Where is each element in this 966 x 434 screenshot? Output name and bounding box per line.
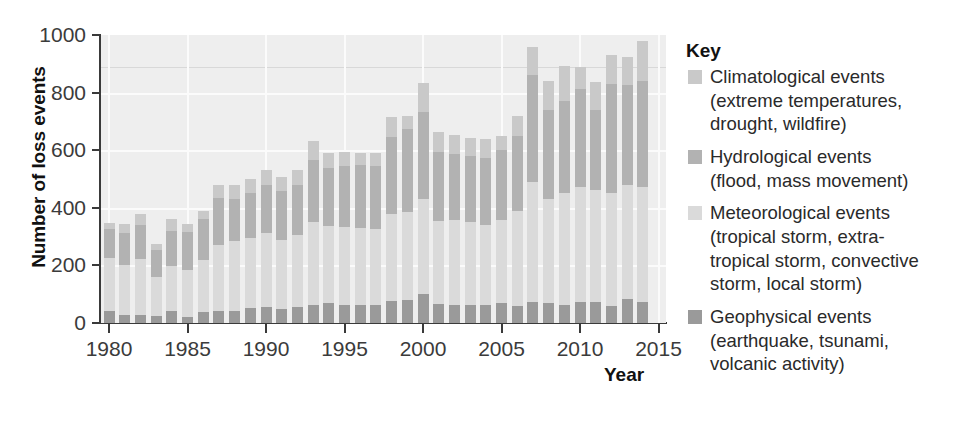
bar-2003: [465, 138, 476, 323]
x-tick-label: 1995: [305, 337, 385, 361]
bar-segment: [213, 311, 224, 323]
bar-segment: [402, 300, 413, 323]
bar-2013: [622, 57, 633, 323]
bar-segment: [135, 315, 146, 323]
bar-segment: [308, 305, 319, 323]
bar-segment: [135, 225, 146, 260]
legend-label-line: volcanic activity): [710, 352, 962, 376]
bar-segment: [418, 112, 429, 198]
x-axis-title: Year: [604, 364, 644, 386]
bar-segment: [496, 220, 507, 304]
bar-segment: [245, 193, 256, 239]
bar-segment: [370, 166, 381, 229]
legend-entry[interactable]: Meteorological events(tropical storm, ex…: [686, 201, 962, 296]
bar-segment: [166, 219, 177, 231]
bar-segment: [308, 141, 319, 160]
y-axis-tick-labels: 10008006004002000: [30, 0, 86, 434]
bar-2002: [449, 135, 460, 323]
bar-segment: [637, 41, 648, 81]
legend-entry[interactable]: Climatological events(extreme temperatur…: [686, 65, 962, 136]
bar-segment: [386, 137, 397, 214]
bar-2010: [575, 67, 586, 323]
bar-segment: [433, 221, 444, 304]
x-tick-mark: [187, 324, 189, 333]
bar-segment: [418, 199, 429, 294]
bar-segment: [402, 116, 413, 129]
x-tick-label: 2015: [619, 337, 699, 361]
bar-segment: [261, 307, 272, 323]
bar-segment: [292, 307, 303, 323]
bar-segment: [590, 82, 601, 110]
bar-segment: [637, 187, 648, 302]
bar-1998: [386, 117, 397, 323]
bar-1980: [104, 223, 115, 323]
bar-segment: [575, 89, 586, 187]
x-tick-mark: [422, 324, 424, 333]
bar-1991: [276, 177, 287, 323]
bar-segment: [637, 302, 648, 323]
legend-label-line: drought, wildfire): [710, 112, 962, 136]
bar-segment: [449, 154, 460, 221]
legend-label-line: Climatological events: [710, 65, 962, 89]
bar-segment: [480, 139, 491, 158]
bar-segment: [245, 308, 256, 323]
bar-segment: [465, 305, 476, 323]
bar-segment: [229, 185, 240, 199]
y-tick-mark: [92, 92, 101, 94]
legend-entry[interactable]: Geophysical events(earthquake, tsunami,v…: [686, 305, 962, 376]
y-tick-label: 400: [30, 197, 86, 218]
plot-area: [101, 35, 666, 323]
bar-segment: [575, 67, 586, 89]
bar-segment: [151, 277, 162, 316]
bar-segment: [527, 75, 538, 182]
bar-segment: [104, 258, 115, 311]
bar-segment: [355, 165, 366, 228]
bar-segment: [418, 294, 429, 323]
legend-label-line: Geophysical events: [710, 305, 962, 329]
bar-segment: [402, 212, 413, 300]
bar-segment: [590, 190, 601, 302]
bar-segment: [245, 238, 256, 308]
x-tick-label: 1985: [148, 337, 228, 361]
x-tick-mark: [108, 324, 110, 333]
legend-label-line: tropical storm, convective: [710, 249, 962, 273]
bar-segment: [496, 150, 507, 220]
bar-2014: [637, 41, 648, 323]
bar-segment: [590, 110, 601, 191]
bar-segment: [292, 185, 303, 235]
bar-segment: [229, 241, 240, 311]
legend-swatch-icon: [688, 206, 702, 220]
y-tick-label: 0: [30, 312, 86, 333]
y-tick-mark: [92, 207, 101, 209]
bar-segment: [276, 240, 287, 309]
x-tick-label: 2010: [540, 337, 620, 361]
x-tick-label: 2000: [383, 337, 463, 361]
bar-segment: [449, 305, 460, 323]
bar-segment: [339, 305, 350, 323]
bar-1999: [402, 116, 413, 323]
bar-segment: [308, 222, 319, 305]
bar-1989: [245, 179, 256, 323]
bar-segment: [527, 47, 538, 76]
x-tick-mark: [344, 324, 346, 333]
bar-segment: [198, 211, 209, 219]
legend-label: Meteorological events(tropical storm, ex…: [686, 201, 962, 296]
bar-segment: [292, 170, 303, 185]
gridline-vertical: [658, 35, 660, 323]
bar-segment: [622, 57, 633, 84]
bar-2009: [559, 66, 570, 323]
bar-segment: [135, 214, 146, 225]
bar-segment: [261, 170, 272, 184]
bar-1985: [182, 224, 193, 323]
x-tick-mark: [501, 324, 503, 333]
bar-segment: [386, 301, 397, 323]
y-tick-mark: [92, 322, 101, 324]
bar-segment: [590, 302, 601, 323]
legend-entry[interactable]: Hydrological events(flood, mass movement…: [686, 145, 962, 192]
bar-segment: [575, 187, 586, 302]
bar-segment: [433, 132, 444, 152]
legend-label: Hydrological events(flood, mass movement…: [686, 145, 962, 192]
bar-1984: [166, 219, 177, 323]
bar-segment: [323, 226, 334, 304]
bar-segment: [559, 101, 570, 193]
